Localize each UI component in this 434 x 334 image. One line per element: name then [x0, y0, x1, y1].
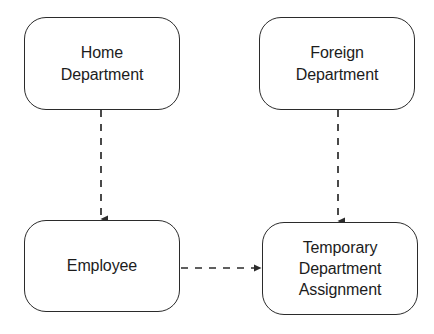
- node-employee-label: Employee: [61, 255, 143, 276]
- node-employee[interactable]: Employee: [24, 220, 180, 312]
- diagram-canvas: Home Department Foreign Department Emplo…: [0, 0, 434, 334]
- node-home-department[interactable]: Home Department: [24, 17, 180, 110]
- node-temporary-department-assignment[interactable]: Temporary Department Assignment: [262, 222, 418, 315]
- node-home-department-label: Home Department: [55, 42, 150, 84]
- node-foreign-department-label: Foreign Department: [290, 42, 385, 84]
- node-foreign-department[interactable]: Foreign Department: [259, 17, 415, 110]
- node-temporary-department-assignment-label: Temporary Department Assignment: [293, 237, 388, 300]
